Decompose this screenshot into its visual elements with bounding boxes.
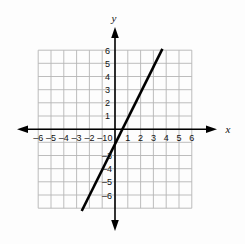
x-tick-labels-negative: –6 –5 –4 –3 –2 –1	[33, 133, 107, 143]
tick-label-y-neg3: –3	[102, 151, 112, 161]
tick-label-x-neg1: –1	[97, 133, 107, 143]
tick-label-x-4: 4	[164, 133, 169, 143]
x-axis-label: x	[225, 123, 231, 135]
x-axis	[17, 125, 217, 133]
tick-label-x-neg4: –4	[59, 133, 69, 143]
x-axis-arrow-right	[206, 125, 217, 133]
y-tick-labels-positive: 6 5 4 3 2 1	[105, 46, 110, 122]
x-axis-arrow-left	[17, 125, 28, 133]
tick-label-x-neg2: –2	[84, 133, 94, 143]
tick-label-y-2: 2	[105, 98, 110, 108]
tick-label-x-neg6: –6	[33, 133, 43, 143]
tick-label-x-1: 1	[125, 133, 130, 143]
tick-label-x-5: 5	[176, 133, 181, 143]
tick-label-x-2: 2	[138, 133, 143, 143]
graph-canvas: x y 0 –6 –5 –4 –3 –2 –1 1 2 3 4 5 6 6 5 …	[0, 0, 245, 244]
tick-label-y-4: 4	[105, 72, 110, 82]
tick-label-y-5: 5	[105, 59, 110, 69]
tick-label-y-neg5: –5	[102, 177, 112, 187]
tick-label-y-neg6: –6	[102, 191, 112, 201]
tick-label-y-3: 3	[105, 85, 110, 95]
x-tick-labels-positive: 1 2 3 4 5 6	[125, 133, 194, 143]
tick-label-x-3: 3	[151, 133, 156, 143]
y-axis-arrow-up	[111, 27, 119, 38]
tick-label-y-1: 1	[105, 111, 110, 121]
coordinate-plane-figure: x y 0 –6 –5 –4 –3 –2 –1 1 2 3 4 5 6 6 5 …	[0, 0, 245, 244]
y-axis-arrow-down	[111, 220, 119, 231]
tick-label-x-neg3: –3	[72, 133, 82, 143]
tick-label-y-neg4: –4	[102, 164, 112, 174]
tick-label-y-6: 6	[105, 46, 110, 56]
tick-label-x-neg5: –5	[46, 133, 56, 143]
tick-label-x-6: 6	[189, 133, 194, 143]
tick-label-origin: 0	[107, 133, 112, 143]
y-tick-labels-negative: –3 –4 –5 –6	[102, 151, 112, 201]
y-axis-label: y	[111, 12, 117, 24]
